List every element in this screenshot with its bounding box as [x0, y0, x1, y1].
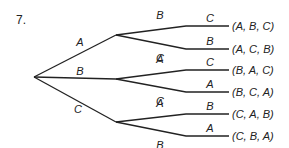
outcome-label: (B, C, A) — [232, 86, 274, 98]
outcome-label: (B, A, C) — [232, 64, 274, 76]
branch-label-second: B — [156, 9, 163, 21]
branch-label-second: A — [155, 97, 163, 109]
branch-label-third: B — [206, 35, 213, 47]
outcome-label: (A, B, C) — [232, 20, 275, 32]
branch-label-first: B — [76, 65, 83, 77]
branch-label-third: C — [206, 56, 214, 68]
branch-first — [34, 77, 116, 79]
branch-label-second: B — [156, 139, 163, 148]
branch-label-first: C — [74, 103, 82, 115]
branch-first — [34, 35, 116, 77]
branch-label-third: B — [206, 100, 213, 112]
outcome-label: (A, C, B) — [232, 43, 275, 55]
branch-second — [116, 114, 229, 122]
branch-label-second: A — [155, 53, 163, 65]
outcome-label: (C, A, B) — [232, 108, 274, 120]
branch-first — [34, 77, 116, 122]
outcome-label: (C, B, A) — [232, 130, 274, 142]
branch-label-first: A — [75, 36, 83, 48]
branch-label-third: A — [205, 78, 213, 90]
tree-diagram: 7. ABC(A, B, C)CB(A, C, B)BAC(B, A, C)CA… — [0, 0, 289, 148]
branch-label-third: C — [206, 12, 214, 24]
branch-second — [116, 26, 229, 35]
problem-number: 7. — [16, 13, 26, 27]
branch-label-third: A — [205, 122, 213, 134]
